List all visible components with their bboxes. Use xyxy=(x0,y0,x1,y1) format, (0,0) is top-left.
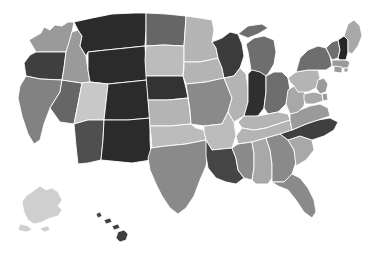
state-CO[interactable] xyxy=(104,80,150,120)
us-choropleth-map-figure xyxy=(0,0,380,260)
state-NM[interactable] xyxy=(101,118,151,163)
state-SD[interactable] xyxy=(145,45,184,76)
state-ND[interactable] xyxy=(146,13,186,46)
state-NH[interactable] xyxy=(338,36,348,60)
state-OR[interactable] xyxy=(24,52,66,80)
state-KS[interactable] xyxy=(148,98,191,126)
state-OH[interactable] xyxy=(264,72,290,114)
state-NJ[interactable] xyxy=(316,78,328,94)
state-AK[interactable] xyxy=(18,186,62,232)
state-MD[interactable] xyxy=(304,92,323,104)
state-NE[interactable] xyxy=(146,76,188,100)
state-HI[interactable] xyxy=(96,212,128,242)
state-AZ[interactable] xyxy=(74,120,104,164)
state-RI[interactable] xyxy=(344,68,348,72)
state-WY[interactable] xyxy=(88,46,147,84)
state-TX[interactable] xyxy=(148,140,208,214)
state-MN[interactable] xyxy=(184,16,218,62)
us-map-svg xyxy=(0,0,380,260)
state-CT[interactable] xyxy=(334,66,342,73)
